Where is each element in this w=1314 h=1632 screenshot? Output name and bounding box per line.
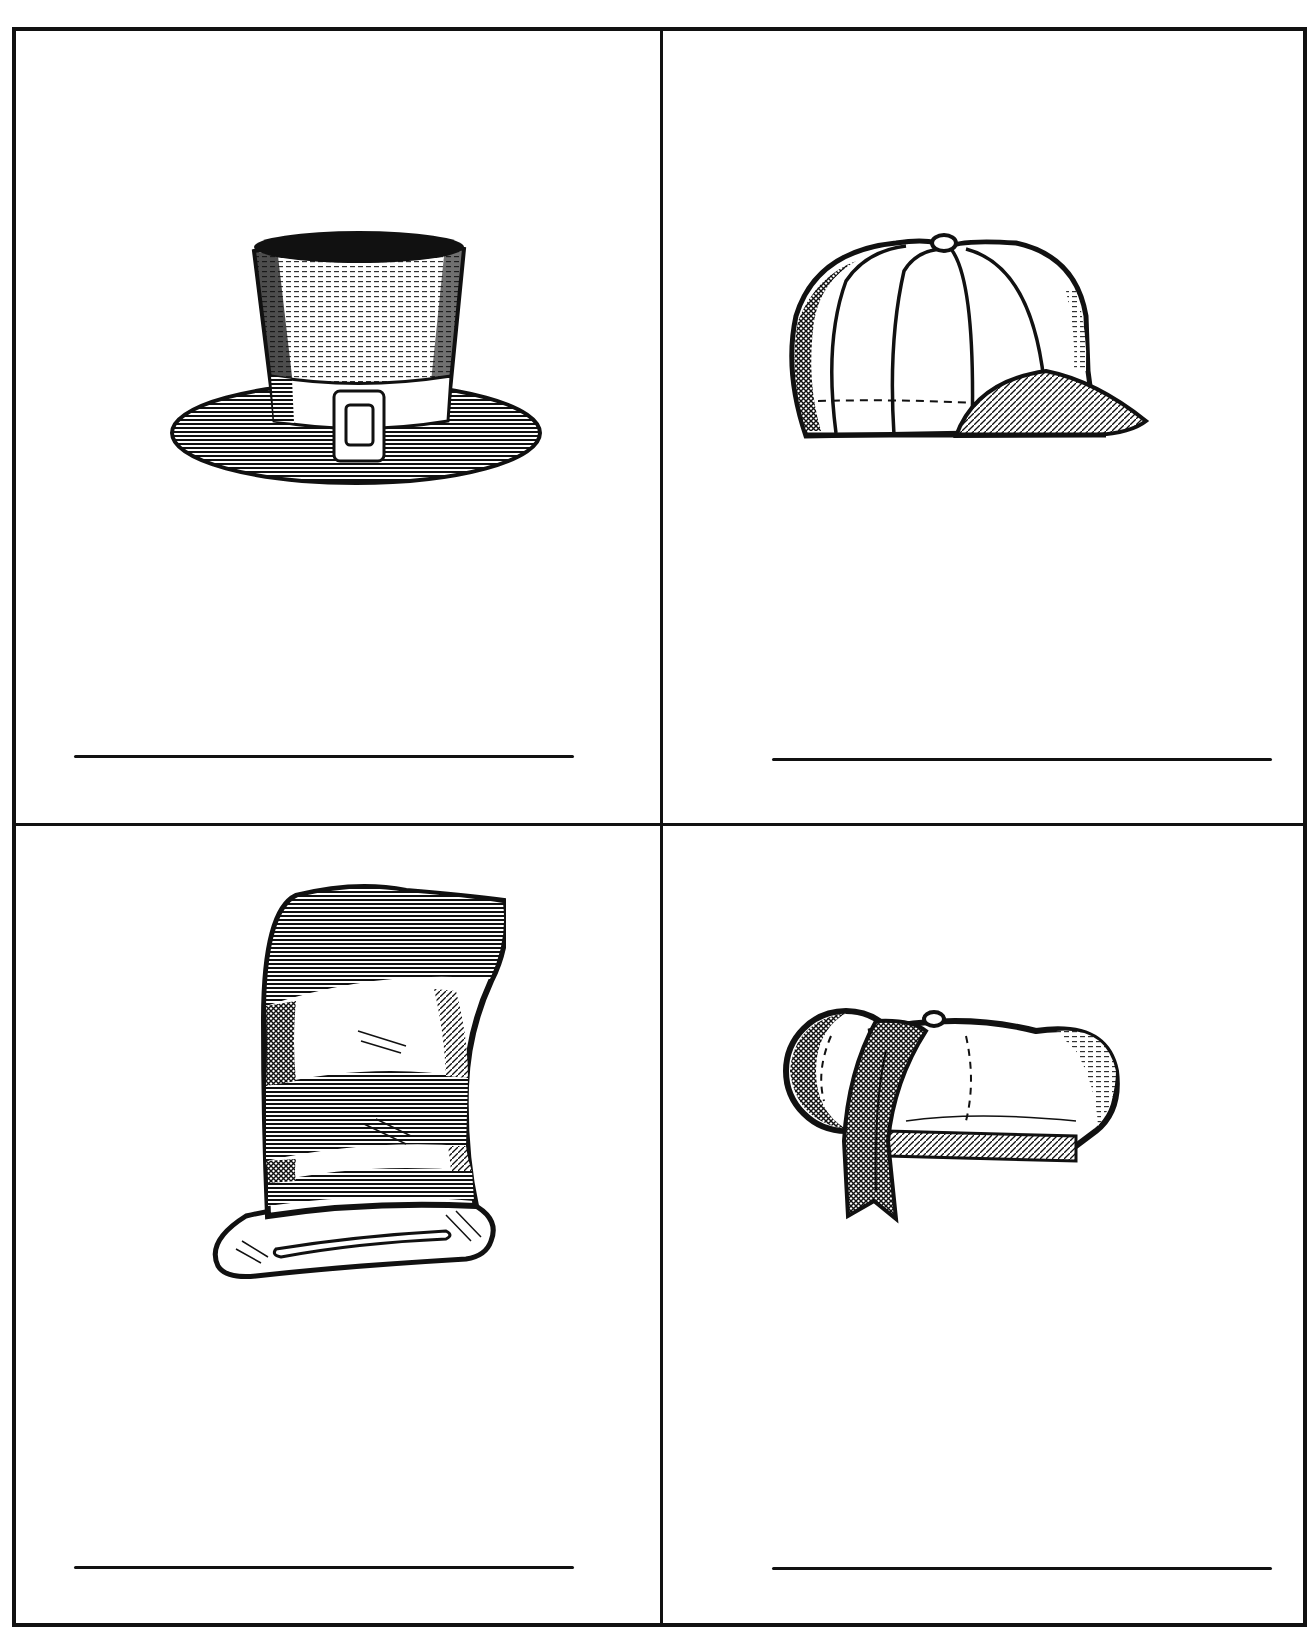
answer-line-top-left[interactable] bbox=[74, 755, 574, 758]
worksheet-grid bbox=[12, 27, 1307, 1627]
bonnet-icon bbox=[776, 991, 1136, 1231]
answer-line-bottom-left[interactable] bbox=[74, 1566, 574, 1569]
answer-line-top-right[interactable] bbox=[772, 758, 1272, 761]
answer-line-bottom-right[interactable] bbox=[772, 1567, 1272, 1570]
vertical-divider bbox=[660, 31, 663, 1623]
striped-hat-icon bbox=[206, 871, 506, 1291]
top-hat-icon bbox=[166, 211, 546, 491]
horizontal-divider bbox=[16, 823, 1303, 826]
baseball-cap-icon bbox=[776, 221, 1156, 451]
